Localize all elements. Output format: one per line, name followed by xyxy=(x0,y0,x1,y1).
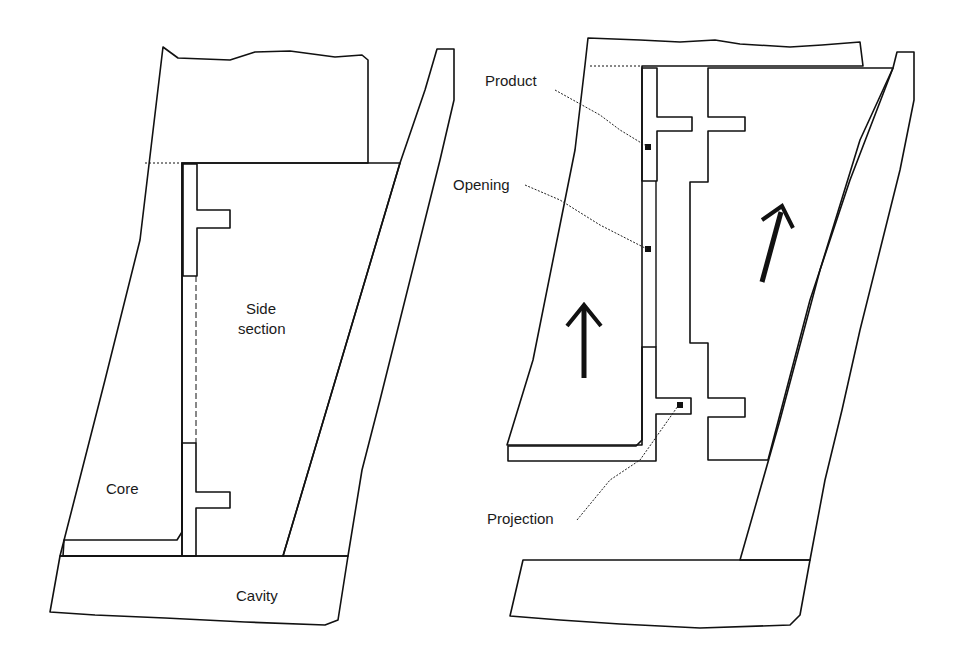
core-block-right xyxy=(507,38,863,445)
cavity-bottom xyxy=(50,556,348,625)
cavity-bottom-right xyxy=(510,560,810,628)
projection-marker xyxy=(677,402,683,408)
side-section-arrow-up-icon xyxy=(762,206,793,282)
opening-marker xyxy=(645,246,651,252)
label-product: Product xyxy=(485,72,538,89)
left-panel: Side section Core Cavity xyxy=(50,47,454,625)
side-section xyxy=(182,163,400,556)
right-panel: Product Opening Projection xyxy=(453,38,914,628)
label-cavity: Cavity xyxy=(236,587,278,604)
label-section: section xyxy=(238,320,286,337)
label-projection: Projection xyxy=(487,510,554,527)
mold-diagram: Side section Core Cavity xyxy=(0,0,961,656)
product-part-right-lower xyxy=(508,347,691,461)
product-part xyxy=(183,164,230,276)
product-part-lower xyxy=(63,443,230,556)
label-side: Side xyxy=(246,300,276,317)
label-opening: Opening xyxy=(453,176,510,193)
cavity-right-arm-right xyxy=(740,52,914,560)
side-section-right xyxy=(690,68,893,460)
core-arrow-up-icon xyxy=(567,305,601,378)
product-part-right xyxy=(642,68,692,181)
label-core: Core xyxy=(106,480,139,497)
